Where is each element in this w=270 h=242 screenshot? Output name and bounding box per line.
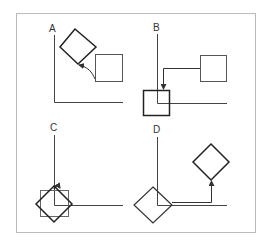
elbow-arrow — [172, 181, 212, 203]
panel-a: A — [49, 23, 123, 103]
transform-diagram: A B C D — [0, 0, 270, 242]
final-rotated-square — [193, 144, 229, 180]
panel-d: D — [134, 124, 229, 223]
panel-label-c: C — [50, 122, 57, 133]
original-square — [201, 56, 227, 82]
panel-b: B — [144, 22, 228, 116]
panel-label-b: B — [153, 22, 160, 33]
panel-label-a: A — [49, 23, 56, 34]
elbow-arrow — [164, 69, 201, 90]
panel-label-d: D — [153, 124, 160, 135]
curved-arrow — [79, 65, 95, 79]
original-square — [96, 55, 123, 82]
rotated-square — [60, 29, 96, 64]
panel-c: C — [36, 122, 123, 222]
